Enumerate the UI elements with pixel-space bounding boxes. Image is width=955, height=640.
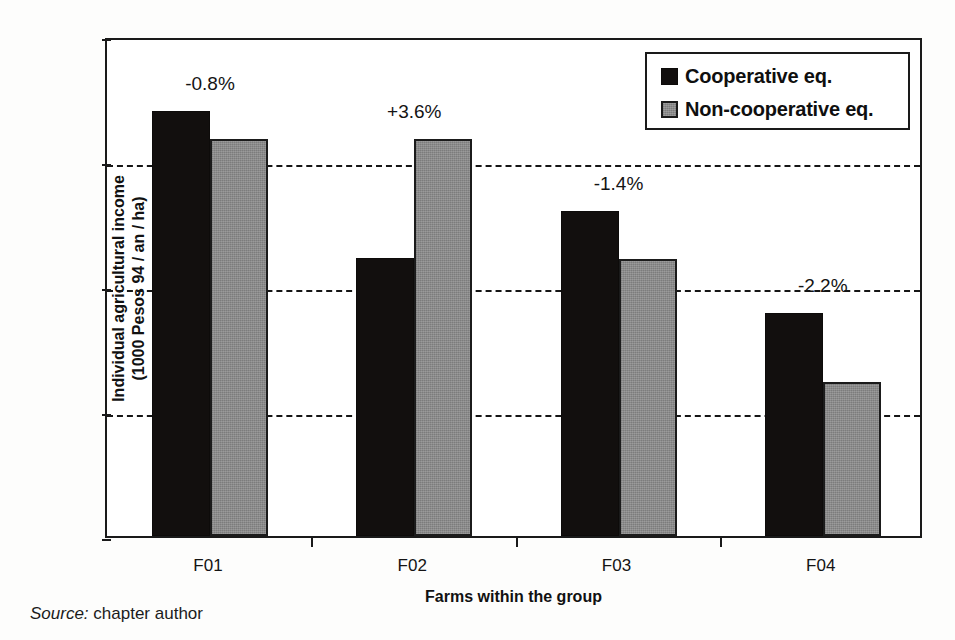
x-axis-title: Farms within the group (105, 588, 922, 606)
legend-swatch-cooperative-icon (661, 68, 678, 85)
figure-container: 5.65.45.25.04.8 -0.8%+3.6%-1.4%-2.2% Ind… (0, 0, 955, 640)
x-axis-separator (516, 536, 518, 547)
x-axis-separator (311, 536, 313, 547)
bar-f03-cooperative (561, 211, 619, 536)
x-axis-separator (720, 536, 722, 547)
legend-item-non-cooperative: Non-cooperative eq. (661, 93, 898, 126)
bar-annotation-f02: +3.6% (339, 101, 489, 123)
source-caption-text: chapter author (89, 604, 203, 623)
x-axis-tick-label-f04: F04 (741, 556, 901, 576)
source-caption: Source: chapter author (30, 604, 203, 624)
plot-area: 5.65.45.25.04.8 -0.8%+3.6%-1.4%-2.2% Ind… (105, 38, 922, 538)
bar-f02-non-cooperative (414, 139, 472, 536)
y-axis-title-line1: Individual agricultural income (109, 0, 129, 598)
legend-label-cooperative: Cooperative eq. (685, 65, 832, 88)
y-axis-title-line2: (1000 Pesos 94 / an / ha) (129, 0, 149, 598)
source-caption-label: Source: (30, 604, 89, 623)
bar-f02-cooperative (356, 258, 414, 536)
x-axis-tick-label-f01: F01 (128, 556, 288, 576)
y-axis-title: Individual agricultural income (1000 Pes… (109, 0, 150, 598)
bar-annotation-f04: -2.2% (748, 275, 898, 297)
legend-item-cooperative: Cooperative eq. (661, 60, 898, 93)
bar-f04-non-cooperative (823, 382, 881, 536)
bar-f01-non-cooperative (210, 139, 268, 536)
legend: Cooperative eq. Non-cooperative eq. (645, 52, 910, 130)
bar-annotation-f03: -1.4% (544, 173, 694, 195)
bar-annotation-f01: -0.8% (135, 73, 285, 95)
legend-label-non-cooperative: Non-cooperative eq. (685, 98, 873, 121)
legend-swatch-non-cooperative-icon (661, 101, 678, 118)
x-axis-tick-label-f03: F03 (537, 556, 697, 576)
bar-f04-cooperative (765, 313, 823, 536)
bar-f01-cooperative (152, 111, 210, 536)
bar-f03-non-cooperative (619, 259, 677, 536)
x-axis-tick-label-f02: F02 (332, 556, 492, 576)
